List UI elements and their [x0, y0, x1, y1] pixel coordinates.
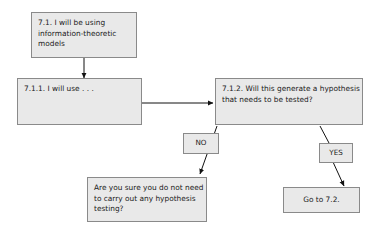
yes-branch-label: YES [329, 148, 343, 158]
node-no-label: NO [183, 133, 219, 154]
node-method-label: 7.1.1. I will use . . . [18, 79, 141, 95]
node-decision-label: 7.1.2. Will this generate a hypothesis t… [216, 79, 362, 105]
node-no-outcome-label: Are you sure you do not need to carry ou… [88, 178, 206, 215]
node-yes-outcome: Go to 7.2. [283, 187, 360, 213]
node-yes-label: YES [319, 143, 353, 163]
flowchart-canvas: 7.1. I will be using information-theoret… [0, 0, 379, 238]
node-yes-outcome-label: Go to 7.2. [303, 195, 339, 206]
node-start: 7.1. I will be using information-theoret… [31, 12, 137, 58]
node-decision: 7.1.2. Will this generate a hypothesis t… [215, 78, 363, 125]
node-start-label: 7.1. I will be using information-theoret… [32, 13, 136, 50]
no-branch-label: NO [195, 138, 206, 148]
node-no-outcome: Are you sure you do not need to carry ou… [87, 177, 207, 222]
edge-decision-to-yes-outcome [320, 126, 329, 143]
node-method: 7.1.1. I will use . . . [17, 78, 142, 125]
edge-yes-to-goto [333, 162, 344, 186]
